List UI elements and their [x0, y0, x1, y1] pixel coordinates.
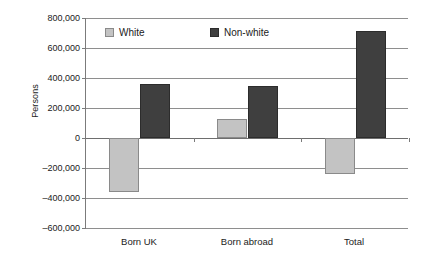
y-axis-tick-label: –400,000	[42, 193, 80, 203]
y-axis-tick-label: 600,000	[47, 43, 80, 53]
gridline: 800,000	[86, 18, 408, 19]
bar-total-non-white	[356, 31, 386, 138]
x-axis-label-born-uk: Born UK	[121, 236, 157, 247]
bar-total-white	[325, 138, 355, 174]
y-axis-tick	[82, 48, 86, 49]
x-axis-label-born-abroad: Born abroad	[221, 236, 273, 247]
y-axis-title: Persons	[30, 66, 40, 136]
bar-born-uk-white	[109, 138, 139, 192]
y-axis-tick	[82, 18, 86, 19]
bar-chart: Persons 800,000600,000400,000200,0000–20…	[0, 0, 422, 274]
y-axis-tick	[82, 138, 86, 139]
y-axis-tick-label: 800,000	[47, 13, 80, 23]
bar-born-uk-non-white	[140, 84, 170, 138]
y-axis-tick	[82, 78, 86, 79]
x-axis-tick	[301, 138, 302, 142]
legend-item-white[interactable]: White	[105, 27, 145, 38]
legend-swatch-non-white-icon	[210, 28, 219, 37]
legend-label-white: White	[119, 27, 145, 38]
y-axis-tick	[82, 198, 86, 199]
y-axis-tick	[82, 168, 86, 169]
y-axis-tick-label: –600,000	[42, 223, 80, 233]
bar-born-abroad-white	[217, 119, 247, 139]
legend-label-non-white: Non-white	[224, 27, 269, 38]
y-axis-tick-label: 0	[75, 133, 80, 143]
y-axis-tick-label: –200,000	[42, 163, 80, 173]
plot-area: 800,000600,000400,000200,0000–200,000–40…	[85, 18, 408, 228]
gridline: –600,000	[86, 228, 408, 229]
bar-born-abroad-non-white	[248, 86, 278, 138]
y-axis-tick	[82, 228, 86, 229]
x-axis-label-total: Total	[344, 236, 364, 247]
x-axis-tick	[194, 138, 195, 142]
x-axis-tick	[409, 138, 410, 142]
gridline: –400,000	[86, 198, 408, 199]
y-axis-tick-label: 400,000	[47, 73, 80, 83]
y-axis-tick-label: 200,000	[47, 103, 80, 113]
legend-item-non-white[interactable]: Non-white	[210, 27, 269, 38]
legend-swatch-white-icon	[105, 28, 114, 37]
y-axis-tick	[82, 108, 86, 109]
